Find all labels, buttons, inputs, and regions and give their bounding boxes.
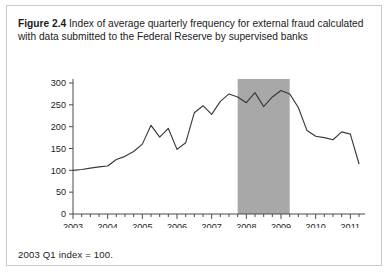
figure-label: Figure 2.4 <box>18 18 66 29</box>
figure-caption: Figure 2.4 Index of average quarterly fr… <box>18 17 372 43</box>
svg-text:2011: 2011 <box>341 222 361 228</box>
svg-text:250: 250 <box>51 100 66 110</box>
figure-footnote: 2003 Q1 index = 100. <box>18 249 113 260</box>
y-axis-tick-labels: 050100150200250300 <box>51 78 66 219</box>
x-axis-tick-labels: 2003Q12004Q12005Q12006Q12007Q12008Q12009… <box>63 222 360 228</box>
svg-text:2004: 2004 <box>98 222 118 228</box>
data-line-series <box>73 90 359 170</box>
figure-card: Figure 2.4 Index of average quarterly fr… <box>6 5 382 266</box>
figure-caption-text: Index of average quarterly frequency for… <box>18 18 363 42</box>
x-axis-ticks <box>73 214 359 219</box>
svg-text:2009: 2009 <box>271 222 291 228</box>
chart-plot-area: 050100150200250300 2003Q12004Q12005Q1200… <box>7 68 383 228</box>
svg-text:2003: 2003 <box>63 222 83 228</box>
svg-text:100: 100 <box>51 166 66 176</box>
svg-text:200: 200 <box>51 122 66 132</box>
svg-text:2010: 2010 <box>306 222 326 228</box>
svg-text:50: 50 <box>56 187 66 197</box>
svg-text:2008: 2008 <box>236 222 256 228</box>
chart-axes <box>73 79 365 214</box>
svg-text:300: 300 <box>51 78 66 88</box>
line-chart: 050100150200250300 2003Q12004Q12005Q1200… <box>7 68 383 228</box>
svg-text:150: 150 <box>51 144 66 154</box>
svg-text:2005: 2005 <box>132 222 152 228</box>
svg-text:2006: 2006 <box>167 222 187 228</box>
svg-text:2007: 2007 <box>202 222 222 228</box>
recession-shaded-band <box>238 79 290 214</box>
svg-text:0: 0 <box>61 209 66 219</box>
y-axis-ticks <box>69 83 73 214</box>
